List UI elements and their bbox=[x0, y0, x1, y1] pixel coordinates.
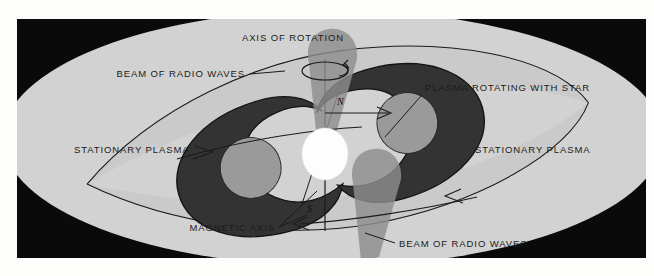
magnetic-axis-label: MAGNETIC AXIS bbox=[189, 222, 275, 233]
beam-top-label: BEAM OF RADIO WAVES bbox=[117, 68, 245, 79]
star-body bbox=[302, 128, 348, 180]
axis-of-rotation-label: AXIS OF ROTATION bbox=[242, 32, 344, 43]
diagram-frame: N S AXIS OF ROTATION BEAM OF RADIO WAVES… bbox=[17, 19, 646, 258]
beam-bottom-label: BEAM OF RADIO WAVES bbox=[399, 238, 527, 249]
plasma-rotating-label: PLASMA ROTATING WITH STAR bbox=[425, 82, 590, 93]
stationary-plasma-right-label: STATIONARY PLASMA bbox=[475, 144, 590, 155]
figure-page: N S AXIS OF ROTATION BEAM OF RADIO WAVES… bbox=[0, 0, 654, 276]
stationary-plasma-left-label: STATIONARY PLASMA bbox=[74, 144, 189, 155]
pole-north-label: N bbox=[336, 96, 345, 107]
pulsar-magnetosphere-diagram: N S AXIS OF ROTATION BEAM OF RADIO WAVES… bbox=[17, 19, 646, 258]
pole-south-label: S bbox=[307, 203, 312, 214]
